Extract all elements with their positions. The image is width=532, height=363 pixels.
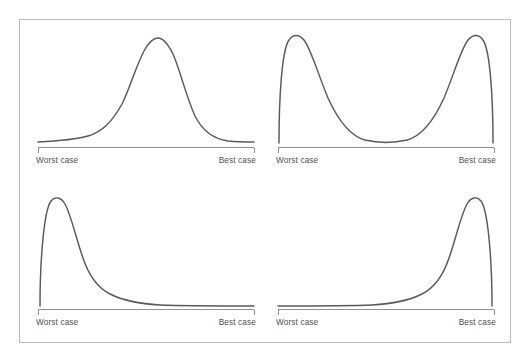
axis-line-left-skewed xyxy=(278,310,494,315)
panel-bimodal-distribution: Worst case Best case xyxy=(276,26,496,176)
panel-symmetric-distribution: Worst case Best case xyxy=(36,26,256,176)
axis-line-right-skewed xyxy=(38,310,254,315)
curve-symmetric-distribution xyxy=(38,38,254,142)
panel-left-skewed-distribution: Worst case Best case xyxy=(276,188,496,338)
axis-labels-symmetric: Worst case Best case xyxy=(36,156,256,165)
plot-area-symmetric xyxy=(36,26,256,152)
axis-labels-right-skewed: Worst case Best case xyxy=(36,318,256,327)
curve-bimodal-distribution xyxy=(279,36,493,144)
axis-label-worst-case: Worst case xyxy=(36,318,78,327)
curve-svg-symmetric xyxy=(36,26,256,152)
axis-label-best-case: Best case xyxy=(219,318,256,327)
panel-right-skewed-distribution: Worst case Best case xyxy=(36,188,256,338)
axis-label-best-case: Best case xyxy=(459,318,496,327)
axis-labels-left-skewed: Worst case Best case xyxy=(276,318,496,327)
figure-frame: Worst case Best case Worst case Best cas… xyxy=(19,19,511,343)
axis-line-bimodal xyxy=(278,148,494,153)
axis-label-worst-case: Worst case xyxy=(276,156,318,165)
axis-line-symmetric xyxy=(38,148,254,153)
curve-left-skewed-distribution xyxy=(278,198,492,306)
panel-grid: Worst case Best case Worst case Best cas… xyxy=(20,20,510,342)
curve-right-skewed-distribution xyxy=(40,198,254,306)
axis-label-worst-case: Worst case xyxy=(276,318,318,327)
axis-label-best-case: Best case xyxy=(459,156,496,165)
plot-area-right-skewed xyxy=(36,188,256,314)
axis-label-worst-case: Worst case xyxy=(36,156,78,165)
curve-svg-bimodal xyxy=(276,26,496,152)
plot-area-left-skewed xyxy=(276,188,496,314)
curve-svg-left-skewed xyxy=(276,188,496,314)
axis-label-best-case: Best case xyxy=(219,156,256,165)
plot-area-bimodal xyxy=(276,26,496,152)
axis-labels-bimodal: Worst case Best case xyxy=(276,156,496,165)
curve-svg-right-skewed xyxy=(36,188,256,314)
